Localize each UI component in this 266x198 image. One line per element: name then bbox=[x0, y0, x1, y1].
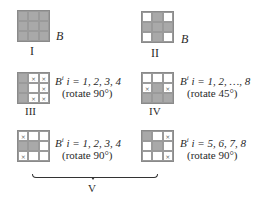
filled-cell bbox=[18, 83, 28, 93]
equation-IV: Bi i = 1, 2, …, 8 bbox=[180, 74, 250, 87]
panel-label-II: II bbox=[151, 46, 159, 61]
x-mark-icon: × bbox=[165, 85, 170, 92]
empty-cell bbox=[152, 73, 162, 83]
empty-cell: × bbox=[39, 93, 49, 103]
eq-rest: i = 1, 2, 3, 4 bbox=[64, 137, 121, 149]
filled-cell bbox=[39, 21, 49, 31]
eq-base: B bbox=[180, 75, 187, 87]
empty-cell bbox=[39, 151, 49, 161]
filled-cell bbox=[152, 83, 162, 93]
empty-cell bbox=[39, 141, 49, 151]
equation-V-a: Bi i = 1, 2, 3, 4 bbox=[55, 136, 121, 149]
eq-base: B bbox=[180, 137, 187, 149]
filled-cell bbox=[28, 31, 38, 41]
structuring-element-grid-II bbox=[141, 11, 174, 43]
filled-cell bbox=[142, 22, 152, 32]
equation-V-b: Bi i = 5, 6, 7, 8 bbox=[180, 136, 246, 149]
empty-cell bbox=[163, 32, 173, 42]
x-mark-icon: × bbox=[145, 85, 150, 92]
filled-cell bbox=[28, 141, 38, 151]
empty-cell: × bbox=[18, 131, 28, 141]
empty-cell bbox=[28, 83, 38, 93]
panel-label-IV: IV bbox=[149, 105, 161, 117]
empty-cell: × bbox=[163, 131, 173, 141]
panel-label-V: V bbox=[88, 182, 96, 194]
structuring-element-grid-V-b: ×× bbox=[141, 130, 174, 162]
x-mark-icon: × bbox=[31, 95, 36, 102]
empty-cell: × bbox=[28, 73, 38, 83]
filled-cell bbox=[142, 131, 152, 141]
set-label-B-II: B bbox=[181, 32, 188, 47]
group-brace bbox=[32, 174, 158, 178]
x-mark-icon: × bbox=[31, 75, 36, 82]
filled-cell bbox=[18, 11, 28, 21]
x-mark-icon: × bbox=[41, 95, 46, 102]
empty-cell: × bbox=[163, 151, 173, 161]
empty-cell: × bbox=[28, 93, 38, 103]
panel-label-I: I bbox=[30, 44, 34, 59]
filled-cell bbox=[39, 11, 49, 21]
empty-cell bbox=[152, 131, 162, 141]
empty-cell: × bbox=[142, 83, 152, 93]
x-mark-icon: × bbox=[41, 75, 46, 82]
filled-cell bbox=[142, 93, 152, 103]
empty-cell: × bbox=[163, 83, 173, 93]
structuring-element-grid-I bbox=[17, 10, 50, 42]
rotation-note-IV: (rotate 45°) bbox=[187, 87, 238, 99]
eq-rest: i = 1, 2, 3, 4 bbox=[64, 75, 121, 87]
empty-cell: × bbox=[39, 83, 49, 93]
empty-cell bbox=[142, 151, 152, 161]
empty-cell bbox=[142, 32, 152, 42]
empty-cell: × bbox=[18, 151, 28, 161]
filled-cell bbox=[152, 22, 162, 32]
x-mark-icon: × bbox=[165, 153, 170, 160]
empty-cell bbox=[39, 131, 49, 141]
empty-cell: × bbox=[39, 73, 49, 83]
empty-cell bbox=[28, 131, 38, 141]
x-mark-icon: × bbox=[21, 133, 26, 140]
empty-cell bbox=[28, 151, 38, 161]
x-mark-icon: × bbox=[21, 153, 26, 160]
filled-cell bbox=[18, 31, 28, 41]
empty-cell bbox=[152, 151, 162, 161]
filled-cell bbox=[18, 73, 28, 83]
eq-base: B bbox=[55, 75, 62, 87]
empty-cell bbox=[163, 73, 173, 83]
filled-cell bbox=[152, 12, 162, 22]
rotation-note-V-b: (rotate 90°) bbox=[187, 149, 238, 161]
group-brace-tip bbox=[91, 177, 95, 180]
filled-cell bbox=[163, 93, 173, 103]
filled-cell bbox=[18, 141, 28, 151]
filled-cell bbox=[163, 22, 173, 32]
empty-cell bbox=[142, 12, 152, 22]
equation-III: Bi i = 1, 2, 3, 4 bbox=[55, 74, 121, 87]
filled-cell bbox=[18, 93, 28, 103]
structuring-element-grid-IV: ×× bbox=[141, 72, 174, 104]
filled-cell bbox=[28, 11, 38, 21]
empty-cell bbox=[142, 73, 152, 83]
rotation-note-III: (rotate 90°) bbox=[62, 87, 113, 99]
x-mark-icon: × bbox=[165, 133, 170, 140]
rotation-note-V-a: (rotate 90°) bbox=[62, 149, 113, 161]
filled-cell bbox=[152, 141, 162, 151]
eq-rest: i = 1, 2, …, 8 bbox=[189, 75, 251, 87]
structuring-element-grid-V-a: ×× bbox=[17, 130, 50, 162]
x-mark-icon: × bbox=[41, 85, 46, 92]
filled-cell bbox=[39, 31, 49, 41]
filled-cell bbox=[152, 32, 162, 42]
empty-cell bbox=[142, 141, 152, 151]
empty-cell bbox=[163, 141, 173, 151]
empty-cell bbox=[163, 12, 173, 22]
eq-base: B bbox=[55, 137, 62, 149]
filled-cell bbox=[18, 21, 28, 31]
filled-cell bbox=[28, 21, 38, 31]
structuring-element-grid-III: ××××× bbox=[17, 72, 50, 104]
panel-label-III: III bbox=[25, 105, 36, 117]
filled-cell bbox=[152, 93, 162, 103]
eq-rest: i = 5, 6, 7, 8 bbox=[189, 137, 246, 149]
set-label-B-I: B bbox=[56, 29, 63, 44]
